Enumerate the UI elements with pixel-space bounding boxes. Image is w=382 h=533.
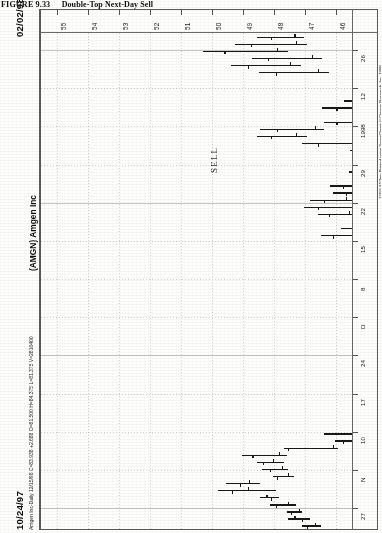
date-tick xyxy=(353,165,358,166)
symbol-label: (AMGN) Amgen Inc xyxy=(28,195,38,271)
bar-range xyxy=(262,469,288,470)
date-tick xyxy=(353,317,358,318)
date-tick-label: D xyxy=(359,325,366,329)
bar-close-tick xyxy=(307,526,308,529)
copyright-strip: 12/16 4:53pm Printed using SuperCharts ©… xyxy=(371,9,381,530)
bar-close-tick xyxy=(302,519,303,522)
bar-close-tick xyxy=(336,122,337,125)
bar-close-tick xyxy=(268,58,269,61)
date-tick xyxy=(353,432,358,433)
bar-close-tick xyxy=(248,65,249,68)
start-date-label: 10/24/97 xyxy=(14,491,25,530)
bar-range xyxy=(270,504,296,505)
bar-range xyxy=(260,497,279,498)
bar-open-tick xyxy=(296,133,297,136)
price-plot-area: SELL xyxy=(41,33,352,529)
price-tick-label: 48 xyxy=(277,22,284,30)
date-tick-label: 27 xyxy=(359,513,366,520)
date-tick xyxy=(353,203,358,204)
bar-close-tick xyxy=(224,51,225,54)
grid-line-vertical xyxy=(181,33,182,529)
bar-range xyxy=(226,483,260,484)
bar-range xyxy=(257,136,307,137)
bar-close-tick xyxy=(318,143,319,146)
bar-close-tick xyxy=(271,498,272,501)
bar-range xyxy=(350,150,352,151)
bar-open-tick xyxy=(266,495,267,498)
price-tick xyxy=(150,9,151,15)
grid-line-horizontal xyxy=(41,50,352,51)
price-tick xyxy=(181,9,182,15)
date-tick xyxy=(353,394,358,395)
grid-line-vertical xyxy=(212,33,213,529)
bar-open-tick xyxy=(333,445,334,448)
bar-range xyxy=(257,37,304,38)
date-tick-label: 22 xyxy=(359,208,366,215)
bar-open-tick xyxy=(249,480,250,483)
price-tick xyxy=(57,9,58,15)
price-axis: 55545352515049484746 xyxy=(40,9,378,33)
price-tick xyxy=(274,9,275,15)
grid-line-horizontal xyxy=(41,165,352,166)
grid-line-vertical xyxy=(88,33,89,529)
bar-close-tick xyxy=(270,469,271,472)
bar-close-tick xyxy=(271,136,272,139)
bar-range xyxy=(349,171,352,172)
bar-close-tick xyxy=(240,484,241,487)
bar-open-tick xyxy=(294,34,295,37)
bar-range xyxy=(321,235,352,236)
grid-line-horizontal xyxy=(41,88,352,89)
bar-open-tick xyxy=(288,473,289,476)
price-tick-label: 50 xyxy=(215,22,222,30)
date-tick xyxy=(353,241,358,242)
date-tick-label: 8 xyxy=(359,288,366,291)
grid-line-horizontal xyxy=(41,241,352,242)
bar-range xyxy=(324,433,352,434)
price-tick xyxy=(119,9,120,15)
price-tick xyxy=(243,9,244,15)
bar-open-tick xyxy=(277,48,278,51)
quote-line: Amgen Inc-Daily 12/15/98 C=83.938 +2.688… xyxy=(28,336,34,530)
bar-close-tick xyxy=(333,236,334,239)
grid-line-horizontal xyxy=(41,126,352,127)
grid-line-horizontal xyxy=(41,432,352,433)
bar-close-tick xyxy=(277,476,278,479)
bar-open-tick xyxy=(312,55,313,58)
price-tick-label: 55 xyxy=(60,22,67,30)
grid-line-horizontal xyxy=(41,203,352,204)
date-tick-label: 12 xyxy=(359,93,366,100)
grid-line-horizontal xyxy=(41,355,352,356)
date-tick xyxy=(353,88,358,89)
date-tick xyxy=(353,126,358,127)
bar-close-tick xyxy=(232,491,233,494)
date-tick-label: N xyxy=(359,477,366,481)
figure-number: FIGURE 9.33 xyxy=(1,0,50,9)
date-tick-label: 24 xyxy=(359,361,366,368)
bar-range xyxy=(257,462,283,463)
bar-open-tick xyxy=(294,516,295,519)
grid-line-vertical xyxy=(305,33,306,529)
bar-range xyxy=(284,448,338,449)
bar-open-tick xyxy=(282,466,283,469)
price-tick-label: 47 xyxy=(308,22,315,30)
date-tick-label: 29 xyxy=(359,170,366,177)
grid-line-horizontal xyxy=(41,317,352,318)
bar-close-tick xyxy=(263,462,264,465)
grid-line-horizontal xyxy=(41,279,352,280)
copyright-text: 12/16 4:53pm Printed using SuperCharts ©… xyxy=(378,65,381,199)
bar-close-tick xyxy=(346,193,347,196)
price-tick-label: 51 xyxy=(184,22,191,30)
date-tick-label: 17 xyxy=(359,399,366,406)
bar-close-tick xyxy=(343,441,344,444)
bar-open-tick xyxy=(296,41,297,44)
bar-range xyxy=(324,122,352,123)
date-tick xyxy=(353,279,358,280)
price-tick xyxy=(212,9,213,15)
grid-line-vertical xyxy=(150,33,151,529)
price-tick-label: 52 xyxy=(153,22,160,30)
bar-close-tick xyxy=(343,186,344,189)
bar-open-tick xyxy=(315,523,316,526)
price-tick xyxy=(88,9,89,15)
end-date-label: 02/02/98 xyxy=(14,0,25,37)
bar-close-tick xyxy=(318,207,319,210)
